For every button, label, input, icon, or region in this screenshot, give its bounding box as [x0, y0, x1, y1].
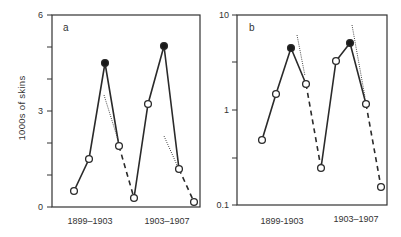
panel-b-xlabel-1: 1899-1903 — [260, 216, 303, 226]
panel-b-letter: b — [249, 22, 255, 33]
panel-b-cycle1-solid — [262, 48, 306, 140]
panel-a-y-ticks — [47, 15, 52, 207]
panel-b: 10 1 0.1 b 1899-1903 1903–1907 — [216, 10, 387, 226]
panel-a-cycle2-dashed — [179, 169, 194, 202]
panel-b-trend1-dotted — [297, 35, 305, 76]
data-point-open — [363, 101, 370, 108]
data-point-open — [71, 188, 78, 195]
panel-a-ytick-6: 6 — [38, 10, 43, 20]
panel-b-cycle2-solid — [321, 43, 366, 168]
panel-b-ytick-10: 10 — [219, 10, 229, 20]
data-point-open — [378, 184, 385, 191]
data-point-open — [116, 143, 123, 150]
data-point-filled — [347, 40, 354, 47]
panel-a-letter: a — [63, 22, 69, 33]
panel-b-ytick-1: 1 — [224, 105, 229, 115]
panel-b-cycle2-dashed — [366, 104, 381, 187]
panel-b-cycle1-dashed — [306, 84, 321, 168]
data-point-filled — [102, 60, 109, 67]
data-point-open — [191, 199, 198, 206]
panel-a-cycle1-dashed — [119, 146, 134, 198]
panel-a-xlabel-2: 1903–1907 — [144, 216, 189, 226]
panel-a-ytick-3: 3 — [38, 106, 43, 116]
data-point-open — [176, 166, 183, 173]
panel-b-frame — [237, 15, 387, 205]
panel-b-markers — [259, 40, 385, 191]
panel-a-ytick-0: 0 — [38, 202, 43, 212]
data-point-open — [273, 91, 280, 98]
data-point-filled — [161, 43, 168, 50]
panel-b-ytick-0-1: 0.1 — [216, 200, 229, 210]
data-point-open — [318, 165, 325, 172]
panel-a-cycle2-solid — [134, 46, 179, 198]
panel-a-xlabel-1: 1899–1903 — [67, 216, 112, 226]
data-point-open — [86, 156, 93, 163]
panel-a-markers — [71, 43, 198, 206]
panel-b-xlabel-2: 1903–1907 — [333, 214, 378, 224]
figure: 6 3 0 1000s of skins a 1899–1903 1903–19… — [0, 0, 401, 237]
panel-a-cycle1-solid — [74, 63, 119, 191]
panel-a-frame — [52, 15, 200, 207]
data-point-filled — [288, 45, 295, 52]
panel-b-y-ticks — [232, 15, 237, 205]
data-point-open — [333, 58, 340, 65]
data-point-open — [259, 137, 266, 144]
data-point-open — [303, 81, 310, 88]
y-axis-title: 1000s of skins — [16, 76, 27, 141]
data-point-open — [131, 195, 138, 202]
data-point-open — [145, 101, 152, 108]
panel-a: 6 3 0 1000s of skins a 1899–1903 1903–19… — [16, 10, 200, 226]
